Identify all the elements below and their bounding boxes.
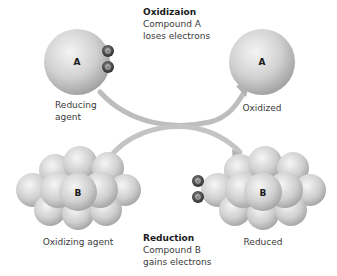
oxidation-title: Oxidizaion: [143, 7, 196, 18]
label-oxidized: Oxidized: [242, 103, 281, 114]
reduction-line2: gains electrons: [143, 257, 211, 268]
oxidation-line1: Compound A: [143, 19, 201, 30]
arrow-a-to-oxidized: [100, 82, 250, 125]
label-reducing-line1: Reducing: [55, 100, 97, 111]
label-reduced: Reduced: [243, 237, 282, 248]
letter-a-left: A: [74, 57, 81, 68]
letter-b-right: B: [260, 188, 267, 199]
letter-b-left: B: [75, 188, 82, 199]
arrow-b-to-reduced: [108, 127, 247, 163]
letter-a-right: A: [259, 57, 266, 68]
reduction-title: Reduction: [143, 233, 194, 244]
label-oxidizing-agent: Oxidizing agent: [43, 237, 114, 248]
label-reducing-line2: agent: [55, 112, 81, 123]
reduction-line1: Compound B: [143, 245, 201, 256]
oxidation-line2: loses electrons: [143, 31, 210, 42]
